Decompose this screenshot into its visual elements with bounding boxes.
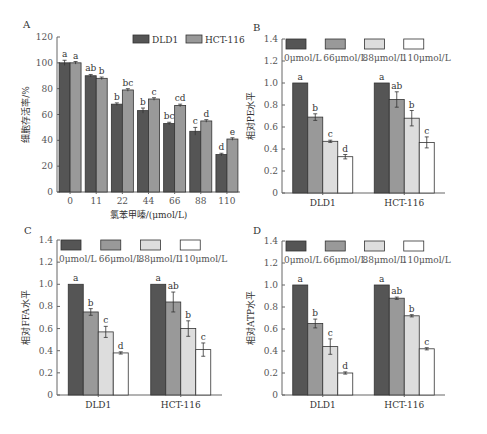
x-tick-label: 88	[195, 196, 207, 206]
y-tick-label: 0.2	[264, 368, 278, 378]
panel-c: C00.20.40.60.81.01.21.4相对FFA水平abcdDLD1aa…	[20, 225, 227, 410]
x-tick-label: DLD1	[310, 198, 336, 208]
bar	[70, 63, 81, 192]
y-tick-label: 1.0	[39, 279, 54, 289]
significance-letter: ab	[85, 63, 96, 73]
y-tick-label: 0.2	[264, 166, 278, 176]
legend-swatch	[286, 39, 306, 49]
panel-label: A	[22, 19, 31, 30]
legend-label: 88μmol/L	[363, 255, 406, 265]
y-tick-label: 1.4	[39, 235, 54, 245]
legend-label: 110μmol/L	[402, 53, 451, 63]
legend-swatch	[365, 39, 385, 49]
bar	[164, 124, 175, 192]
significance-letter: b	[88, 298, 94, 308]
y-axis-label: 细胞存活率/%	[20, 86, 31, 143]
bar	[98, 332, 113, 395]
y-tick-label: 0.8	[264, 100, 279, 110]
y-tick-label: 0.8	[264, 302, 279, 312]
panel-label: D	[253, 225, 261, 236]
legend-swatch	[101, 240, 121, 250]
significance-letter: b	[99, 66, 105, 76]
x-tick-label: 11	[90, 196, 101, 206]
legend: DLD1HCT-116	[133, 35, 245, 45]
legend-label: 110μmol/L	[402, 255, 451, 265]
legend-label: 66μmol/L	[323, 255, 366, 265]
x-tick-label: HCT-116	[384, 198, 424, 208]
significance-letter: a	[73, 51, 79, 61]
bar	[227, 139, 238, 192]
significance-letter: b	[312, 308, 318, 318]
legend-label: 0μmol/L	[284, 255, 321, 265]
bar	[190, 131, 201, 192]
y-tick-label: 0.8	[39, 301, 54, 311]
y-tick-label: 20	[42, 161, 54, 171]
x-tick-label: 0	[67, 196, 73, 206]
y-tick-label: 40	[42, 135, 54, 145]
bar	[83, 312, 98, 395]
y-tick-label: 100	[36, 58, 53, 68]
x-tick-label: HCT-116	[161, 400, 201, 410]
legend: 0μmol/L66μmol/L88μmol/L110μmol/L	[284, 39, 451, 63]
significance-letter: d	[342, 361, 348, 371]
bar	[293, 83, 308, 193]
legend-swatch	[286, 241, 306, 251]
y-tick-label: 60	[42, 110, 54, 120]
legend-swatch	[61, 240, 81, 250]
bar	[308, 324, 323, 396]
y-tick-label: 0	[272, 390, 278, 400]
significance-letter: a	[379, 274, 385, 284]
panel-label: B	[253, 22, 260, 33]
significance-letter: b	[185, 310, 191, 320]
significance-letter: c	[424, 337, 429, 347]
y-tick-label: 1.2	[39, 257, 53, 267]
significance-letter: bc	[164, 111, 175, 121]
legend-label: 88μmol/L	[363, 53, 406, 63]
significance-letter: e	[230, 127, 235, 137]
legend-label: DLD1	[152, 35, 178, 45]
y-axis-label: 相对FFA水平	[20, 290, 31, 344]
significance-letter: a	[298, 274, 304, 284]
bar	[338, 373, 353, 395]
y-tick-label: 0.2	[39, 368, 53, 378]
legend-swatch	[404, 39, 424, 49]
figure-canvas: A020406080100120细胞存活率/%aa0abb11bbc22bc44…	[0, 0, 487, 434]
bar	[374, 285, 389, 395]
bar	[59, 63, 70, 192]
legend-label: 66μmol/L	[323, 53, 366, 63]
x-tick-label: 44	[143, 196, 155, 206]
legend-swatch	[180, 240, 200, 250]
y-tick-label: 1.2	[264, 56, 278, 66]
y-tick-label: 0.6	[264, 122, 279, 132]
bar	[181, 329, 196, 395]
significance-letter: c	[328, 129, 333, 139]
y-tick-label: 0	[47, 187, 53, 197]
y-tick-label: 80	[42, 84, 54, 94]
x-tick-label: 110	[218, 196, 235, 206]
significance-letter: a	[62, 49, 68, 59]
significance-letter: c	[151, 87, 156, 97]
bar	[96, 78, 107, 192]
significance-letter: d	[203, 109, 209, 119]
bar	[338, 157, 353, 193]
legend-swatch	[325, 39, 345, 49]
bar	[122, 90, 133, 192]
bar	[166, 302, 181, 395]
legend-label: 0μmol/L	[284, 53, 321, 63]
legend: 0μmol/L66μmol/L88μmol/L110μmol/L	[59, 240, 227, 264]
bar	[201, 121, 212, 192]
significance-letter: a	[156, 273, 162, 283]
bar	[389, 298, 404, 395]
y-axis-label: 相对PE水平	[245, 92, 256, 141]
y-tick-label: 0	[47, 390, 53, 400]
bar	[111, 104, 122, 192]
y-tick-label: 120	[36, 32, 53, 42]
legend-swatch	[141, 240, 161, 250]
y-axis-label: 相对ATP水平	[245, 291, 256, 345]
legend-swatch	[365, 241, 385, 251]
x-tick-label: HCT-116	[384, 400, 424, 410]
significance-letter: cd	[175, 93, 186, 103]
significance-letter: c	[193, 116, 198, 126]
bar	[149, 99, 160, 192]
panel-b: B00.20.40.60.81.01.21.4相对PE水平abcdDLD1aab…	[245, 22, 451, 208]
